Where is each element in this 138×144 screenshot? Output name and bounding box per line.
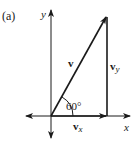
vector-vx-label: vx: [73, 120, 83, 134]
panel-label: (a): [2, 9, 15, 23]
x-axis-label: x: [123, 121, 129, 133]
axes: y x: [26, 8, 130, 138]
vector-v-label: v: [68, 57, 74, 69]
angle-label: 60°: [66, 100, 81, 112]
vector-vy-label: vy: [110, 60, 120, 74]
vector-components-diagram: (a) y x v vx vy 60°: [0, 0, 138, 144]
y-axis-label: y: [40, 8, 46, 20]
